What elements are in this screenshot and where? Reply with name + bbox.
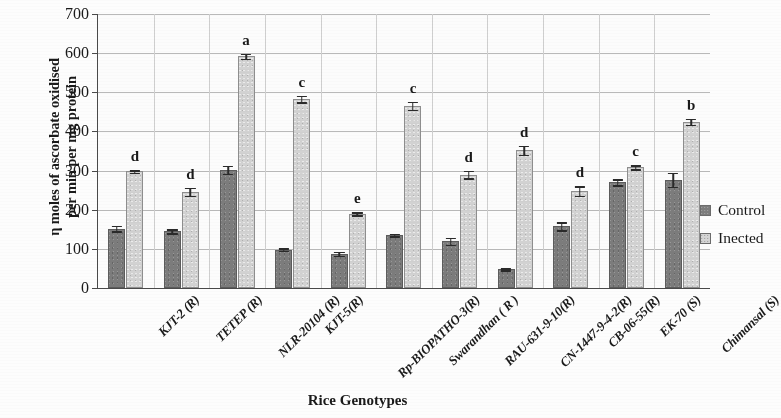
bar-control bbox=[275, 250, 292, 288]
x-axis-title-text: Rice Genotypes bbox=[308, 392, 408, 409]
group-separator bbox=[487, 14, 488, 288]
y-axis-tick-label: 0 bbox=[81, 279, 89, 297]
significance-letter: d bbox=[464, 149, 472, 166]
legend-swatch-control-icon bbox=[700, 205, 711, 216]
group-separator bbox=[432, 14, 433, 288]
group-separator bbox=[321, 14, 322, 288]
error-bar-cap-bottom bbox=[241, 59, 251, 61]
group-separator bbox=[599, 14, 600, 288]
bar-control bbox=[386, 235, 403, 288]
bar-control bbox=[108, 229, 125, 288]
legend-label: Control bbox=[718, 201, 765, 219]
bar-control bbox=[331, 254, 348, 288]
error-bar-cap-bottom bbox=[630, 169, 640, 171]
error-bar-cap-bottom bbox=[464, 178, 474, 180]
bar-infected bbox=[516, 150, 533, 288]
error-bar-cap-bottom bbox=[519, 155, 529, 157]
group-separator bbox=[209, 14, 210, 288]
error-bar-cap-bottom bbox=[279, 251, 289, 253]
bar-control bbox=[220, 170, 237, 288]
chart-legend: ControlInected bbox=[700, 196, 781, 252]
bar-infected bbox=[460, 175, 477, 289]
bar-group: c bbox=[599, 14, 655, 288]
bar-infected bbox=[182, 192, 199, 288]
x-axis-tick-label: EK-70 (S) bbox=[656, 292, 704, 340]
bar-infected bbox=[404, 106, 421, 288]
significance-letter: d bbox=[131, 148, 139, 165]
bar-group: d bbox=[98, 14, 154, 288]
group-separator bbox=[265, 14, 266, 288]
group-separator bbox=[543, 14, 544, 288]
error-bar-cap-bottom bbox=[446, 245, 456, 247]
y-axis-tick-label: 600 bbox=[65, 44, 89, 62]
bar-infected bbox=[126, 171, 143, 288]
x-axis-tick-label: TETEP (R) bbox=[213, 292, 266, 345]
error-bar bbox=[672, 173, 674, 187]
error-bar-cap-top bbox=[279, 248, 289, 250]
error-bar-cap-bottom bbox=[130, 173, 140, 175]
bar-control bbox=[442, 241, 459, 288]
significance-letter: c bbox=[298, 74, 305, 91]
bar-group: d bbox=[432, 14, 488, 288]
bar-infected bbox=[571, 191, 588, 288]
legend-item: Control bbox=[700, 196, 781, 224]
x-axis-tick-label: KJT-2 (R) bbox=[155, 292, 203, 340]
legend-item: Inected bbox=[700, 224, 781, 252]
significance-letter: c bbox=[632, 143, 639, 160]
bar-group: c bbox=[376, 14, 432, 288]
significance-letter: b bbox=[687, 97, 695, 114]
error-bar-cap-top bbox=[519, 146, 529, 148]
error-bar-cap-top bbox=[130, 170, 140, 172]
bar-group: d bbox=[543, 14, 599, 288]
significance-letter: e bbox=[354, 190, 361, 207]
error-bar-cap-top bbox=[557, 222, 567, 224]
bar-group: e bbox=[321, 14, 377, 288]
bar-control bbox=[609, 182, 626, 288]
error-bar-cap-bottom bbox=[408, 110, 418, 112]
error-bar-cap-top bbox=[668, 173, 678, 175]
y-axis-tick-label: 300 bbox=[65, 162, 89, 180]
y-axis-tick-label: 100 bbox=[65, 240, 89, 258]
y-axis-tick-label: 200 bbox=[65, 201, 89, 219]
y-axis-tick-label: 400 bbox=[65, 122, 89, 140]
bar-infected bbox=[293, 99, 310, 288]
x-axis-line bbox=[97, 288, 710, 289]
y-axis-title-container: η moles of ascorbate oxidised per min pe… bbox=[0, 0, 52, 300]
error-bar-cap-top bbox=[112, 226, 122, 228]
error-bar-cap-top bbox=[167, 229, 177, 231]
error-bar-cap-top bbox=[334, 252, 344, 254]
bar-infected bbox=[683, 122, 700, 288]
error-bar-cap-top bbox=[446, 238, 456, 240]
error-bar-cap-top bbox=[241, 54, 251, 56]
error-bar-cap-bottom bbox=[334, 256, 344, 258]
error-bar-cap-bottom bbox=[686, 125, 696, 127]
error-bar-cap-bottom bbox=[390, 236, 400, 238]
bar-infected bbox=[238, 56, 255, 288]
x-axis-title: Rice Genotypes bbox=[0, 392, 781, 409]
error-bar-cap-top bbox=[185, 188, 195, 190]
bar-control bbox=[164, 231, 181, 288]
error-bar-cap-top bbox=[501, 268, 511, 270]
x-axis-tick-label: Chimansal (S) bbox=[718, 292, 781, 356]
bar-group: d bbox=[154, 14, 210, 288]
error-bar-cap-bottom bbox=[668, 187, 678, 189]
error-bar-cap-top bbox=[352, 212, 362, 214]
error-bar-cap-bottom bbox=[501, 270, 511, 272]
bar-group: d bbox=[487, 14, 543, 288]
bar-group: a bbox=[209, 14, 265, 288]
y-axis-title-line1: η moles of ascorbate oxidised bbox=[46, 58, 62, 236]
error-bar-cap-top bbox=[686, 119, 696, 121]
error-bar-cap-bottom bbox=[575, 196, 585, 198]
error-bar-cap-top bbox=[297, 96, 307, 98]
group-separator bbox=[154, 14, 155, 288]
significance-letter: d bbox=[576, 164, 584, 181]
error-bar-cap-bottom bbox=[557, 230, 567, 232]
group-separator bbox=[654, 14, 655, 288]
error-bar-cap-bottom bbox=[185, 196, 195, 198]
legend-label: Inected bbox=[718, 229, 764, 247]
bar-infected bbox=[627, 167, 644, 288]
significance-letter: d bbox=[186, 166, 194, 183]
error-bar-cap-bottom bbox=[167, 233, 177, 235]
bar-control bbox=[665, 180, 682, 288]
significance-letter: c bbox=[410, 80, 417, 97]
